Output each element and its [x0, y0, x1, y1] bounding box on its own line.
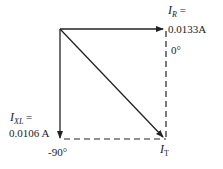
ir-value: 0.0133A	[168, 23, 206, 35]
ixl-label: IXL =	[10, 111, 32, 128]
ir-angle: 0°	[171, 44, 181, 56]
it-vector-arrow	[60, 29, 163, 137]
ir-equals: =	[177, 4, 186, 16]
ixl-value: 0.0106 A	[9, 127, 49, 139]
phasor-diagram: IR = 0.0133A 0° IXL = 0.0106 A -90° IT	[0, 0, 223, 169]
ixl-equals: =	[23, 111, 32, 123]
ixl-subscript: XL	[14, 117, 23, 126]
it-label: IT	[160, 143, 169, 160]
ixl-angle: -90°	[48, 146, 67, 158]
it-subscript: T	[164, 149, 169, 158]
ir-label: IR =	[168, 4, 186, 21]
